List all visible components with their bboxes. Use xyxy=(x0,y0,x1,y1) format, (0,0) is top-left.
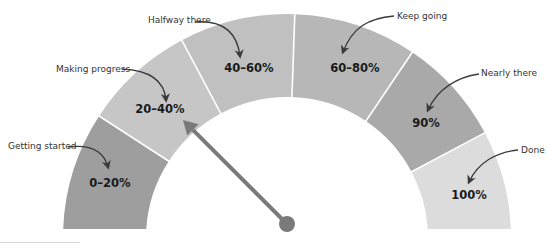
segment-callout-label: Making progress xyxy=(56,64,130,74)
gauge-segments xyxy=(63,14,511,238)
progress-gauge: 0–20%20–40%40–60%60–80%90%100% Getting s… xyxy=(0,0,547,245)
segment-value-label: 20–40% xyxy=(135,102,185,116)
gauge-needle xyxy=(183,120,295,232)
segment-value-label: 60–80% xyxy=(330,61,380,75)
segment-callout-label: Halfway there xyxy=(148,15,211,25)
needle-shaft xyxy=(193,130,287,224)
segment-callout-label: Done xyxy=(521,145,545,155)
segment-callout-label: Getting started xyxy=(8,141,77,151)
bottom-rule xyxy=(0,242,80,243)
segment-value-label: 100% xyxy=(451,188,487,202)
segment-value-label: 0–20% xyxy=(89,176,131,190)
segment-value-label: 40–60% xyxy=(224,61,274,75)
segment-callout-label: Nearly there xyxy=(481,68,537,78)
segment-value-label: 90% xyxy=(412,116,440,130)
segment-callout-label: Keep going xyxy=(397,11,447,21)
needle-pivot-icon xyxy=(279,216,295,232)
